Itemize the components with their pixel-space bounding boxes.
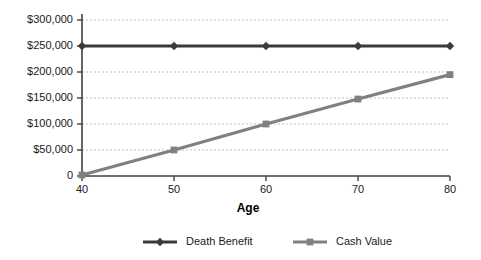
legend-item-label: Death Benefit (186, 235, 253, 247)
x-axis-tick-label: 50 (168, 183, 180, 195)
data-point-marker (171, 147, 178, 154)
chart-canvas: $300,000$250,000$200,000$150,000$100,000… (0, 0, 481, 260)
y-axis-tick-label: 0 (67, 169, 73, 181)
x-axis-tick-label: 40 (76, 183, 88, 195)
y-axis-tick-label: $300,000 (27, 13, 73, 25)
data-point-marker (307, 239, 314, 246)
y-axis-tick-label: $100,000 (27, 117, 73, 129)
x-axis-tick-label: 80 (444, 183, 456, 195)
x-axis-tick-label: 70 (352, 183, 364, 195)
data-point-marker (79, 172, 86, 179)
data-point-marker (263, 121, 270, 128)
x-axis-tick-label: 60 (260, 183, 272, 195)
y-axis-tick-label: $150,000 (27, 91, 73, 103)
line-chart: $300,000$250,000$200,000$150,000$100,000… (0, 0, 481, 260)
data-point-marker (355, 96, 362, 103)
legend-item-label: Cash Value (336, 235, 392, 247)
data-point-marker (447, 71, 454, 78)
x-axis-title: Age (237, 201, 260, 215)
y-axis-tick-label: $250,000 (27, 39, 73, 51)
y-axis-tick-label: $200,000 (27, 65, 73, 77)
y-axis-tick-label: $50,000 (33, 143, 73, 155)
